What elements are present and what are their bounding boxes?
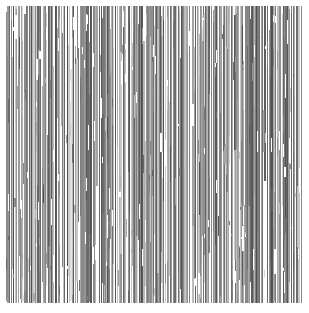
stripe-line — [96, 6, 98, 186]
stripe-line — [72, 233, 73, 253]
stripe-line — [106, 262, 107, 266]
stripe-line — [275, 16, 276, 23]
stripe-line — [33, 293, 35, 301]
stripe-line — [70, 124, 71, 136]
stripe-line — [28, 258, 29, 272]
stripe-line — [218, 216, 219, 236]
stripe-line — [243, 65, 244, 110]
stripe-line — [118, 270, 119, 286]
stripe-line — [200, 276, 201, 298]
stripe-line — [149, 180, 150, 194]
stripe-line — [60, 272, 61, 278]
stripe-line — [36, 102, 37, 107]
stripe-line — [11, 6, 12, 303]
stripe-line — [184, 155, 185, 168]
stripe-line — [206, 45, 207, 240]
stripe-line — [22, 6, 23, 303]
stripe-line — [252, 6, 253, 303]
stripe-line — [198, 140, 199, 154]
stripe-line — [235, 57, 236, 72]
stripe-line — [295, 63, 296, 72]
stripe-line — [72, 38, 73, 295]
stripe-line — [221, 6, 222, 303]
stripe-line — [52, 91, 53, 138]
stripe-line — [235, 271, 236, 283]
stripe-line — [75, 58, 76, 64]
stripe-line — [264, 6, 266, 181]
stripe-line — [19, 37, 20, 69]
stripe-line — [279, 203, 280, 214]
stripe-line — [215, 77, 216, 245]
stripe-line — [111, 6, 112, 303]
stripe-line — [68, 45, 69, 276]
stripe-line — [59, 172, 60, 197]
stripe-line — [213, 10, 214, 231]
stripe-line — [152, 170, 153, 176]
stripe-line — [287, 6, 288, 303]
stripe-line — [107, 215, 108, 238]
stripe-line — [53, 150, 54, 162]
stripe-line — [284, 167, 286, 177]
stripe-line — [215, 63, 216, 67]
stripe-line — [123, 6, 124, 303]
stripe-line — [104, 285, 105, 302]
stripe-line — [108, 73, 109, 85]
stripe-line — [248, 6, 249, 303]
stripe-line — [232, 6, 233, 303]
stripe-line — [283, 268, 284, 271]
stripe-line — [33, 6, 35, 303]
stripe-line — [151, 6, 153, 303]
stripe-line — [36, 243, 37, 247]
stripe-line — [146, 6, 147, 303]
stripe-line — [273, 228, 274, 250]
stripe-line — [291, 6, 292, 303]
stripe-line — [102, 157, 103, 163]
stripe-line — [27, 172, 28, 178]
stripe-line — [50, 6, 51, 303]
stripe-line — [66, 135, 67, 143]
stripe-line — [153, 89, 154, 111]
stripe-line — [216, 50, 217, 63]
stripe-line — [93, 53, 94, 67]
stripe-line — [301, 6, 302, 303]
stripe-line — [45, 78, 46, 83]
stripe-line — [32, 6, 33, 303]
stripe-line — [244, 207, 246, 234]
stripe-line — [131, 6, 132, 303]
stripe-line — [89, 94, 90, 302]
stripe-line — [25, 90, 26, 100]
stripe-line — [29, 6, 30, 303]
stripe-line — [12, 57, 13, 269]
stripe-line — [204, 109, 205, 255]
stripe-line — [176, 6, 177, 303]
stripe-line — [143, 155, 144, 173]
stripe-line — [222, 177, 223, 192]
stripe-line — [195, 278, 196, 286]
stripe-line — [91, 234, 92, 247]
stripe-line — [291, 227, 292, 229]
stripe-line — [216, 180, 217, 193]
stripe-line — [258, 6, 259, 303]
stripe-line — [274, 249, 276, 274]
stripe-line — [253, 249, 254, 270]
stripe-line — [69, 6, 70, 303]
stripe-line — [204, 148, 205, 154]
stripe-line — [46, 40, 47, 286]
stripe-line — [17, 86, 18, 109]
stripe-line — [295, 193, 297, 197]
stripe-line — [110, 267, 111, 287]
stripe-line — [135, 6, 137, 303]
stripe-line — [168, 6, 169, 303]
stripe-line — [157, 29, 159, 273]
stripe-line — [240, 6, 241, 303]
stripe-line — [209, 255, 210, 279]
stripe-line — [155, 56, 156, 74]
stripe-line — [208, 6, 209, 303]
stripe-line — [200, 6, 202, 303]
stripe-line — [261, 6, 262, 303]
stripe-line — [149, 6, 150, 303]
stripe-line — [173, 22, 175, 49]
stripe-line — [178, 6, 179, 303]
stripe-line — [195, 6, 196, 303]
stripe-line — [50, 266, 51, 269]
